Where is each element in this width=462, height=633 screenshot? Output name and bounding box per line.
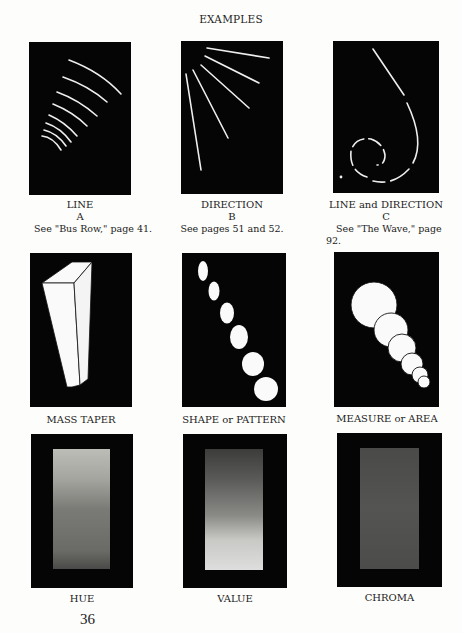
example-hue-title: HUE bbox=[31, 593, 133, 605]
illustration-shape-pattern bbox=[182, 253, 286, 407]
illustration-chroma bbox=[337, 433, 442, 587]
example-b-title: DIRECTION bbox=[181, 199, 283, 211]
illustration-measure-area bbox=[334, 252, 439, 407]
tapered-block-icon bbox=[30, 253, 132, 407]
chroma-swatch bbox=[360, 448, 419, 569]
page-number: 36 bbox=[80, 611, 95, 628]
example-a-letter: A bbox=[29, 211, 131, 223]
example-b-reference: See pages 51 and 52. bbox=[170, 223, 294, 235]
example-c-letter: C bbox=[333, 211, 439, 223]
illustration-line bbox=[29, 42, 131, 195]
overlapping-circles-icon bbox=[334, 252, 439, 407]
spiral-wave-icon bbox=[333, 41, 439, 193]
example-a-title: LINE bbox=[29, 199, 131, 211]
example-measure-area-title: MEASURE or AREA bbox=[322, 413, 452, 425]
value-gradient-swatch bbox=[205, 449, 263, 570]
example-a-reference: See "Bus Row," page 41. bbox=[18, 223, 168, 235]
example-mass-taper-title: MASS TAPER bbox=[30, 414, 132, 426]
radiating-lines-icon bbox=[181, 41, 283, 194]
illustration-value bbox=[183, 434, 287, 588]
example-b-letter: B bbox=[181, 211, 283, 223]
concentric-arcs-icon bbox=[29, 42, 131, 195]
illustration-hue bbox=[31, 434, 133, 588]
hue-gradient-swatch bbox=[53, 449, 110, 569]
example-chroma-title: CHROMA bbox=[337, 592, 442, 604]
illustration-direction bbox=[181, 41, 283, 194]
ellipse-sequence-icon bbox=[182, 253, 286, 407]
illustration-line-and-direction bbox=[333, 41, 439, 193]
example-c-reference: See "The Wave," page 92. bbox=[326, 223, 446, 247]
example-c-title: LINE and DIRECTION bbox=[320, 199, 452, 211]
example-shape-pattern-title: SHAPE or PATTERN bbox=[172, 414, 296, 426]
example-value-title: VALUE bbox=[183, 593, 287, 605]
illustration-mass-taper bbox=[30, 253, 132, 407]
page-heading: EXAMPLES bbox=[0, 13, 462, 25]
